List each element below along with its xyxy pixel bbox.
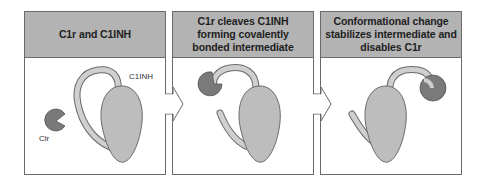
c1r-protease-3 bbox=[420, 75, 446, 101]
right-arrow-icon bbox=[165, 87, 183, 121]
c1inh-molecule-1 bbox=[77, 70, 142, 162]
right-arrow-icon bbox=[313, 87, 331, 121]
c1r-label: Clr bbox=[39, 134, 49, 143]
c1r-protease-1 bbox=[45, 109, 65, 131]
diagram-artwork bbox=[0, 0, 485, 187]
c1inh-label: C1INH bbox=[129, 72, 153, 81]
c1inh-molecule-2 bbox=[214, 68, 281, 163]
c1inh-molecule-3 bbox=[352, 70, 431, 163]
